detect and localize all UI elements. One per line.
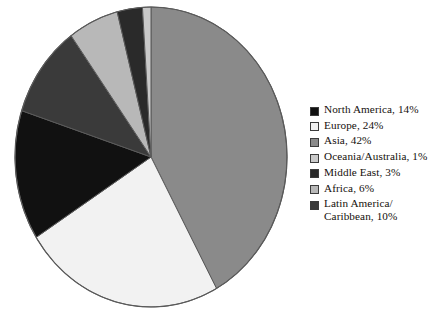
legend-item: Middle East, 3% (310, 166, 442, 179)
legend-swatch-icon (310, 185, 319, 194)
legend-item-label: Africa, 6% (324, 182, 374, 195)
legend-swatch-icon (310, 169, 319, 178)
legend-item: Oceania/Australia, 1% (310, 150, 442, 163)
legend-swatch-icon (310, 107, 319, 116)
chart-legend: North America, 14%Europe, 24%Asia, 42%Oc… (310, 103, 442, 226)
legend-swatch-icon (310, 138, 319, 147)
legend-item-label: Europe, 24% (324, 119, 384, 132)
pie-chart-svg (8, 4, 293, 310)
legend-swatch-icon (310, 154, 319, 163)
pie-chart-figure: North America, 14%Europe, 24%Asia, 42%Oc… (0, 0, 445, 314)
legend-item-label: North America, 14% (324, 103, 419, 116)
legend-item-label: Asia, 42% (324, 134, 372, 147)
legend-item-label: Latin America/ Caribbean, 10% (324, 197, 397, 223)
pie-chart-area (8, 4, 293, 310)
legend-item: Europe, 24% (310, 119, 442, 132)
legend-item-label: Oceania/Australia, 1% (324, 150, 427, 163)
legend-swatch-icon (310, 201, 319, 210)
legend-item: Africa, 6% (310, 182, 442, 195)
legend-swatch-icon (310, 122, 319, 131)
legend-item: Asia, 42% (310, 134, 442, 147)
legend-item: Latin America/ Caribbean, 10% (310, 197, 442, 223)
legend-item: North America, 14% (310, 103, 442, 116)
legend-item-label: Middle East, 3% (324, 166, 400, 179)
